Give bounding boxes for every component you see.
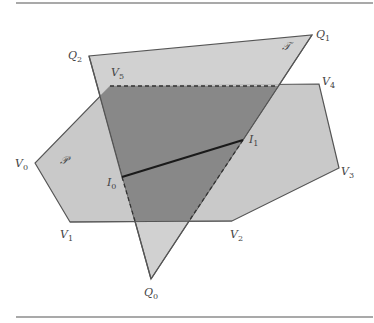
label-v1: V1 bbox=[60, 228, 73, 243]
label-q1: Q1 bbox=[316, 28, 330, 43]
label-q2: Q2 bbox=[68, 49, 82, 64]
label-q0: Q0 bbox=[144, 286, 158, 301]
label-v0: V0 bbox=[15, 157, 28, 172]
label-v2: V2 bbox=[230, 228, 243, 243]
label-v3: V3 bbox=[341, 165, 354, 180]
label-v4: V4 bbox=[322, 75, 335, 90]
polygon-triangle-intersection-diagram: 𝒫 𝒯 V0 V1 V2 V3 V4 V5 Q0 Q1 Q2 I0 I1 bbox=[0, 0, 374, 323]
